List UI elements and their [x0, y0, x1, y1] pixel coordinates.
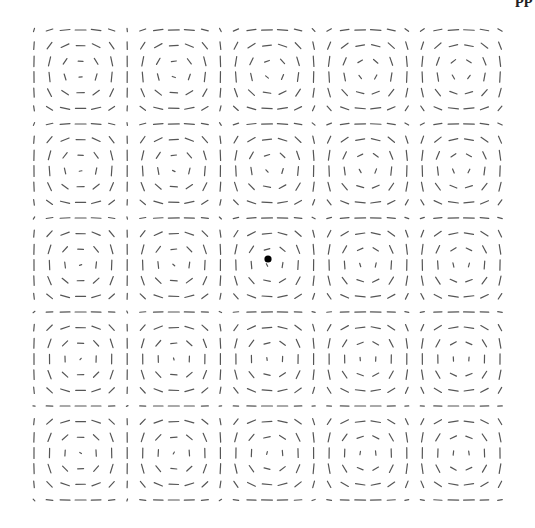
field-glyph [341, 107, 349, 110]
field-glyph [250, 152, 254, 159]
field-glyph [499, 276, 501, 285]
field-glyph [141, 42, 145, 49]
field-glyph [481, 295, 489, 299]
field-glyph [142, 245, 144, 254]
field-glyphs [33, 28, 502, 501]
field-glyph [278, 44, 286, 47]
field-glyph [498, 294, 502, 299]
field-glyph [262, 108, 272, 109]
field-glyph [340, 29, 349, 30]
field-glyph [234, 200, 239, 205]
field-glyph [247, 420, 255, 423]
field-glyph [95, 74, 97, 80]
field-glyph [434, 325, 441, 329]
field-glyph [156, 246, 160, 252]
field-glyph [202, 231, 208, 237]
field-glyph [219, 311, 221, 312]
field-glyph [420, 312, 424, 313]
field-glyph [480, 107, 488, 110]
field-glyph [313, 293, 315, 299]
field-glyph [48, 245, 51, 254]
field-glyph [140, 500, 146, 501]
field-glyph [295, 388, 301, 393]
field-glyph [405, 29, 409, 32]
field-glyph [262, 202, 272, 203]
field-glyph [279, 185, 286, 189]
field-glyph [406, 150, 407, 160]
field-glyph [202, 200, 208, 204]
field-glyph [313, 419, 315, 425]
field-glyph [295, 482, 301, 487]
field-glyph [295, 200, 302, 204]
field-glyph [65, 262, 66, 268]
field-glyph [421, 182, 423, 191]
field-glyph [234, 294, 238, 299]
field-glyph [63, 341, 68, 346]
field-glyph [282, 262, 283, 267]
field-glyph [157, 74, 159, 81]
field-glyph [171, 249, 177, 250]
field-glyph [388, 107, 395, 110]
field-glyph [109, 106, 115, 110]
field-glyph [264, 280, 271, 281]
field-glyph [154, 232, 162, 236]
field-glyph [187, 59, 191, 64]
field-glyph [157, 58, 161, 64]
field-glyph [327, 294, 331, 299]
field-glyph [498, 29, 502, 31]
field-glyph [483, 58, 486, 65]
field-glyph [220, 276, 221, 285]
field-glyph [33, 217, 34, 219]
field-glyph [203, 464, 206, 472]
field-glyph [375, 75, 377, 79]
field-glyph [327, 312, 332, 313]
field-glyph [343, 58, 346, 65]
field-glyph [220, 370, 221, 380]
field-glyph [156, 372, 161, 378]
field-glyph [371, 296, 381, 298]
field-glyph [109, 294, 114, 299]
field-glyph [327, 230, 330, 236]
field-glyph [499, 245, 501, 255]
field-glyph [187, 153, 191, 158]
field-glyph [449, 421, 458, 423]
field-glyph [94, 58, 98, 64]
field-glyph [46, 29, 53, 31]
field-glyph [247, 124, 256, 125]
field-glyph [247, 389, 255, 392]
field-glyph [484, 167, 485, 175]
field-glyph [312, 312, 315, 313]
field-glyph [358, 60, 363, 63]
field-glyph [373, 154, 378, 158]
field-glyph [61, 201, 70, 203]
field-glyph [327, 481, 330, 487]
field-glyph [406, 42, 408, 49]
field-glyph [355, 296, 365, 297]
field-glyph [453, 169, 455, 173]
field-glyph [234, 106, 239, 110]
field-glyph [405, 419, 408, 425]
field-glyph [48, 339, 51, 347]
field-glyph [342, 277, 347, 283]
field-glyph [449, 483, 458, 485]
field-glyph [435, 137, 441, 142]
field-glyph [422, 433, 424, 442]
field-glyph [233, 217, 238, 218]
field-glyph [204, 72, 205, 81]
field-glyph [110, 464, 113, 473]
field-glyph [280, 247, 285, 251]
field-glyph [500, 72, 501, 82]
field-glyph [110, 433, 113, 441]
field-glyph [406, 244, 407, 254]
field-glyph [158, 262, 159, 269]
field-glyph [80, 453, 82, 454]
field-glyph [405, 123, 409, 125]
field-glyph [371, 421, 380, 423]
field-glyph [342, 371, 346, 378]
field-glyph [278, 421, 287, 423]
field-glyph [33, 311, 35, 312]
field-glyph [372, 91, 379, 94]
field-glyph [247, 295, 255, 298]
field-glyph [110, 370, 113, 379]
field-glyph [436, 465, 440, 472]
